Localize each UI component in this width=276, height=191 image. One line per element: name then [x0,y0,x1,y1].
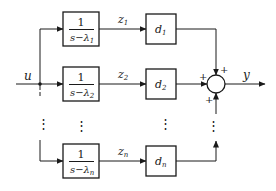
tfn-numerator: 1 [78,148,85,161]
output-signal: y [225,68,265,84]
output-label: y [242,68,250,82]
tf2-numerator: 1 [78,71,85,84]
sign-left: + [199,71,207,82]
row1-out-line [176,29,216,75]
rown-out-line [176,141,216,161]
input-signal: u [16,69,42,86]
gain-ellipsis: ⋮ [159,116,172,131]
sign-top: + [220,64,228,75]
distribution-bus: ⋮ [37,29,50,161]
sign-bottom: + [205,94,213,105]
tf1-numerator: 1 [78,16,85,29]
z2-label: z2 [117,68,129,82]
input-label: u [24,69,32,83]
row-n: 1 s−λn zn dn ⋮ + [40,93,220,178]
tf-ellipsis: ⋮ [75,118,88,133]
z1-label: z1 [117,13,128,27]
row-2: 1 s−λ2 z2 d2 + [40,67,207,101]
bus-ellipsis: ⋮ [37,116,50,131]
row-1: 1 s−λ1 z1 d1 + [40,12,228,75]
zn-label: zn [117,145,129,159]
sum-ellipsis: ⋮ [207,118,220,133]
summing-junction [207,75,225,93]
block-diagram: u ⋮ 1 s−λ1 z1 d1 + 1 s−λ2 z2 d2 + ⋮ [0,0,276,191]
